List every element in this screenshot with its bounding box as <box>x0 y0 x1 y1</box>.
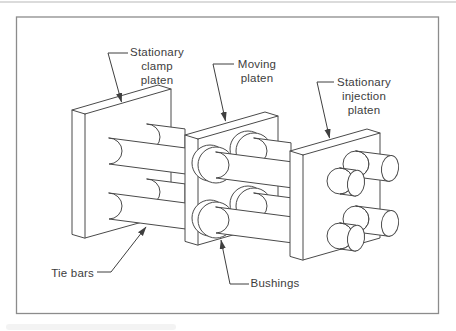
label-line: platen <box>107 73 207 87</box>
label-line: injection <box>314 89 414 103</box>
label-line: platen <box>207 71 307 85</box>
label-line: platen <box>314 103 414 117</box>
label-stationary-injection-platen: Stationary injection platen <box>314 75 414 117</box>
figure-canvas: Stationary clamp platen Moving platen St… <box>0 0 456 331</box>
label-line: Bushings <box>225 276 325 290</box>
label-stationary-clamp-platen: Stationary clamp platen <box>107 45 207 87</box>
label-tie-bars: Tie bars <box>20 266 94 280</box>
label-line: Stationary <box>314 75 414 89</box>
label-moving-platen: Moving platen <box>207 57 307 85</box>
label-line: clamp <box>107 59 207 73</box>
label-line: Stationary <box>107 45 207 59</box>
label-line: Tie bars <box>20 266 94 280</box>
label-bushings: Bushings <box>225 276 325 290</box>
cropped-caption-ghost <box>6 324 176 330</box>
label-line: Moving <box>207 57 307 71</box>
